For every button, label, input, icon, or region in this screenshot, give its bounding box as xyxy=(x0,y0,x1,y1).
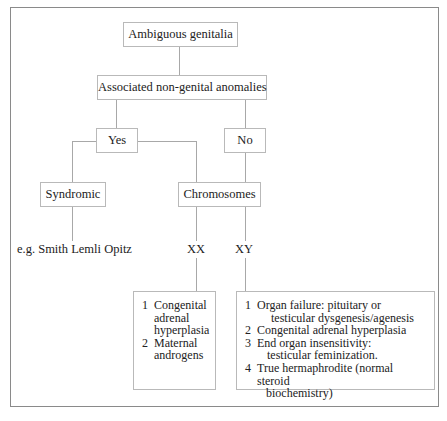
connector xyxy=(72,141,96,142)
connector xyxy=(245,206,246,241)
list-item: 1 Congenital adrenal hyperplasia xyxy=(142,299,209,337)
connector xyxy=(116,99,117,128)
connector xyxy=(179,46,180,75)
item-number: 2 xyxy=(142,337,148,350)
item-number: 4 xyxy=(245,362,251,375)
xx-causes-box: 1 Congenital adrenal hyperplasia 2 Mater… xyxy=(133,291,216,390)
node-chromosomes: Chromosomes xyxy=(178,182,261,207)
node-no: No xyxy=(224,128,266,153)
item-text: Organ failure: pituitary or xyxy=(257,299,428,312)
node-ambiguous-genitalia: Ambiguous genitalia xyxy=(123,22,238,47)
item-text: Maternal androgens xyxy=(154,337,209,362)
label-xy: XY xyxy=(235,241,253,257)
item-number: 3 xyxy=(245,337,251,350)
list-item: 4 True hermaphrodite (normal steroid bio… xyxy=(245,362,428,400)
xy-causes-box: 1 Organ failure: pituitary or testicular… xyxy=(236,291,435,390)
connector xyxy=(245,152,246,182)
connector xyxy=(72,141,73,182)
list-item: 2 Maternal androgens xyxy=(142,337,209,362)
item-text-continued: biochemistry) xyxy=(257,387,428,400)
node-syndromic: Syndromic xyxy=(40,182,106,207)
item-number: 2 xyxy=(245,324,251,337)
list-item: 1 Organ failure: pituitary or testicular… xyxy=(245,299,428,324)
node-associated-anomalies: Associated non-genital anomalies xyxy=(97,75,267,100)
connector xyxy=(196,206,197,241)
list-item: 3 End organ insensitivity: testicular fe… xyxy=(245,337,428,362)
label-xx: XX xyxy=(187,241,205,257)
node-yes: Yes xyxy=(96,128,138,153)
connector xyxy=(245,258,246,291)
list-item: 2 Congenital adrenal hyperplasia xyxy=(245,324,428,337)
item-number: 1 xyxy=(142,299,148,312)
connector xyxy=(137,141,196,142)
item-text: True hermaphrodite (normal steroid xyxy=(257,362,428,387)
item-text: Congenital adrenal hyperplasia xyxy=(257,324,428,337)
connector xyxy=(72,206,73,241)
label-example: e.g. Smith Lemli Opitz xyxy=(17,241,132,257)
item-number: 1 xyxy=(245,299,251,312)
connector xyxy=(196,141,197,182)
connector xyxy=(245,99,246,128)
item-text: Congenital adrenal hyperplasia xyxy=(154,299,209,337)
connector xyxy=(196,258,197,291)
